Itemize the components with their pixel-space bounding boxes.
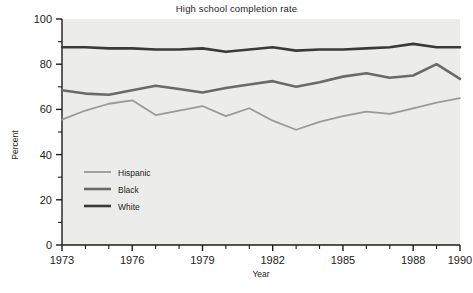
- line-chart-plot: 020406080100 197319761979198219851988199…: [0, 0, 473, 293]
- x-axis-tick-label: 1979: [190, 254, 214, 266]
- y-axis-tick-label: 40: [40, 149, 52, 161]
- legend-label-black: Black: [118, 185, 140, 195]
- x-axis-title: Year: [252, 269, 269, 279]
- x-axis-tick-label: 1990: [448, 254, 472, 266]
- x-axis-tick-label: 1976: [120, 254, 144, 266]
- x-axis-tick-label: 1982: [260, 254, 284, 266]
- x-axis-tick-label: 1985: [331, 254, 355, 266]
- legend-label-white: White: [118, 202, 140, 212]
- y-axis-tick-label: 60: [40, 103, 52, 115]
- y-axis-tick-labels: 020406080100: [34, 13, 52, 251]
- chart-figure: High school completion rate 020406080100…: [0, 0, 473, 293]
- x-axis-ticks: [62, 245, 460, 251]
- y-axis-tick-label: 20: [40, 194, 52, 206]
- x-axis-tick-label: 1973: [50, 254, 74, 266]
- y-axis-tick-label: 100: [34, 13, 52, 25]
- y-axis-title: Percent: [10, 130, 20, 160]
- y-axis-tick-label: 80: [40, 58, 52, 70]
- x-axis-tick-label: 1988: [401, 254, 425, 266]
- x-axis-tick-labels: 1973197619791982198519881990: [50, 254, 472, 266]
- y-axis-ticks: [56, 19, 62, 245]
- y-axis-tick-label: 0: [46, 239, 52, 251]
- legend-label-hispanic: Hispanic: [118, 168, 151, 178]
